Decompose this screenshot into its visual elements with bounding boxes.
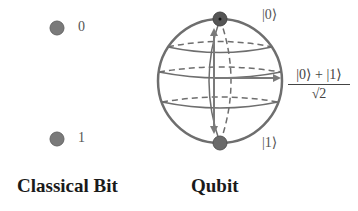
classical-bit-caption: Classical Bit <box>17 175 118 197</box>
ket-zero-label: |0⟩ <box>262 6 277 23</box>
ket-one-label: |1⟩ <box>262 134 277 151</box>
superposition-formula: |0⟩ + |1⟩ √2 <box>288 66 350 102</box>
bloch-sphere <box>158 19 282 143</box>
classical-state-0-point <box>50 21 64 35</box>
classical-state-1-label: 1 <box>78 130 85 146</box>
superposition-denominator: √2 <box>288 85 350 102</box>
qubit-pole-1-point <box>213 136 227 150</box>
classical-state-1-point <box>50 132 64 146</box>
qubit-caption: Qubit <box>191 175 239 197</box>
classical-state-0-label: 0 <box>78 19 85 35</box>
superposition-numerator: |0⟩ + |1⟩ <box>288 66 350 85</box>
